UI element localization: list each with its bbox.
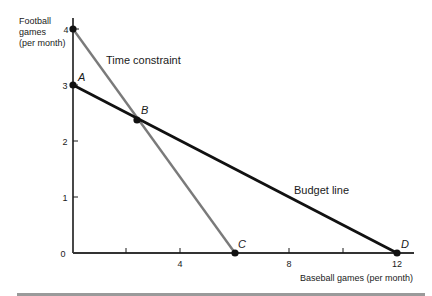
point-c-label: C (238, 238, 246, 250)
chart: 0 1 2 3 4 4 8 12 Football games (per mon… (0, 0, 432, 296)
budget-line (73, 85, 397, 253)
point-b-label: B (141, 104, 148, 116)
budget-line-label: Budget line (294, 184, 349, 196)
point-d-label: D (401, 238, 409, 250)
y-tick-4: 4 (63, 25, 68, 35)
y-tick-3: 3 (62, 81, 67, 91)
x-tick-4: 4 (177, 259, 182, 269)
point-d-marker (393, 249, 400, 256)
time-constraint-label: Time constraint (106, 54, 181, 66)
y-axis-label-line2: games (19, 27, 47, 37)
point-a-marker (69, 81, 76, 88)
y-tick-0: 0 (60, 249, 65, 259)
point-c-marker (231, 249, 238, 256)
y-axis-label-line3: (per month) (19, 38, 66, 48)
y-tick-2: 2 (62, 137, 67, 147)
y-tick-1: 1 (62, 193, 67, 203)
x-tick-12: 12 (392, 259, 402, 269)
point-4-marker (69, 25, 76, 32)
point-b-marker (133, 116, 140, 123)
point-a-label: A (77, 71, 85, 83)
x-tick-8: 8 (286, 259, 291, 269)
x-axis-label: Baseball games (per month) (300, 273, 413, 283)
y-axis-label-line1: Football (19, 16, 51, 26)
y-ticks (73, 29, 79, 197)
